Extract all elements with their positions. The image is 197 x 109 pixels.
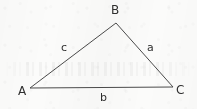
triangle-drawing bbox=[0, 0, 197, 109]
vertex-label-c: C bbox=[176, 84, 184, 96]
side-label-b: b bbox=[100, 92, 107, 103]
side-label-c: c bbox=[61, 42, 67, 53]
vertex-label-b: B bbox=[111, 4, 119, 16]
triangle-outline bbox=[30, 23, 173, 88]
vertex-label-a: A bbox=[18, 85, 26, 97]
side-label-a: a bbox=[147, 42, 154, 53]
triangle-figure: A B C a b c bbox=[0, 0, 197, 109]
